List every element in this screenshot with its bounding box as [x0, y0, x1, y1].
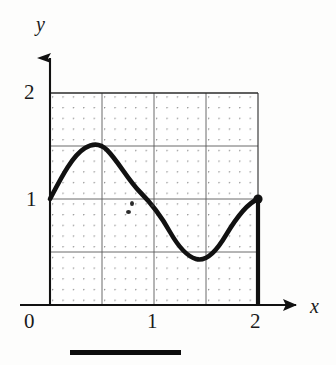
x-tick-label-2: 2 [250, 311, 261, 332]
scan-speck [126, 210, 131, 214]
y-tick-label-1: 1 [26, 189, 37, 210]
x-axis-label: x [310, 296, 319, 316]
bottom-bar-artifact [70, 350, 181, 355]
endpoint-marker [253, 194, 262, 203]
scan-speck [151, 204, 154, 207]
plot-canvas [0, 0, 336, 365]
graph-figure: y x 2 1 0 1 2 [0, 0, 336, 365]
scan-speck [130, 201, 134, 206]
y-axis-label: y [36, 14, 45, 34]
y-tick-label-2: 2 [24, 82, 35, 103]
x-tick-label-0: 0 [24, 311, 35, 332]
x-tick-label-1: 1 [147, 311, 158, 332]
